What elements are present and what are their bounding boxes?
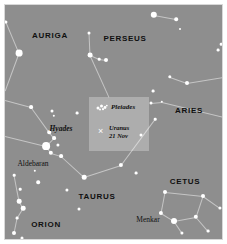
star bbox=[51, 110, 54, 113]
constellation-line bbox=[5, 136, 46, 147]
star bbox=[151, 12, 157, 18]
object-label-menkar: Menkar bbox=[136, 215, 159, 224]
star bbox=[53, 115, 55, 117]
star bbox=[179, 28, 181, 30]
star bbox=[163, 190, 167, 194]
star bbox=[220, 43, 223, 46]
uranus-label: Uranus bbox=[109, 124, 129, 131]
star bbox=[104, 58, 108, 62]
star bbox=[21, 237, 24, 240]
star bbox=[42, 142, 50, 150]
constellation-label-aries: ARIES bbox=[175, 106, 203, 115]
constellation-line bbox=[5, 100, 31, 108]
constellation-line bbox=[174, 217, 196, 222]
star bbox=[174, 17, 178, 21]
star bbox=[171, 218, 177, 224]
star bbox=[180, 231, 183, 234]
star bbox=[98, 58, 101, 61]
uranus-position-marker: × bbox=[98, 127, 103, 136]
star bbox=[19, 188, 22, 191]
star bbox=[12, 231, 16, 235]
star bbox=[119, 163, 123, 167]
star bbox=[154, 118, 157, 121]
star bbox=[150, 102, 153, 105]
star bbox=[16, 50, 23, 57]
constellation-line bbox=[61, 156, 85, 178]
uranus-callout-box: Pleiades × Uranus 21 Nov bbox=[89, 97, 149, 151]
constellation-line bbox=[154, 15, 176, 20]
object-label-hyades: Hyades bbox=[50, 124, 73, 133]
star bbox=[21, 206, 26, 211]
star bbox=[152, 90, 155, 93]
star bbox=[16, 217, 19, 220]
constellation-label-orion: ORION bbox=[31, 220, 61, 229]
star bbox=[207, 230, 210, 233]
star bbox=[34, 170, 36, 172]
star bbox=[76, 112, 79, 115]
star bbox=[52, 136, 56, 140]
star bbox=[185, 81, 189, 85]
constellation-label-auriga: AURIGA bbox=[32, 31, 68, 40]
constellation-label-taurus: TAURUS bbox=[79, 192, 116, 201]
object-label-aldebaran: Aldebaran bbox=[17, 159, 48, 168]
star bbox=[88, 53, 93, 58]
star bbox=[17, 199, 22, 204]
star bbox=[56, 143, 59, 146]
star bbox=[218, 206, 221, 209]
star bbox=[36, 180, 40, 184]
pleiades-cluster-icon bbox=[95, 103, 109, 111]
star bbox=[65, 188, 68, 191]
constellation-line bbox=[165, 192, 203, 197]
star bbox=[88, 32, 91, 35]
pleiades-label: Pleiades bbox=[111, 103, 135, 111]
star-chart: AURIGAPERSEUSARIESTAURUSORIONCETUS Hyade… bbox=[0, 0, 227, 244]
star bbox=[29, 105, 33, 109]
star bbox=[82, 175, 87, 180]
star bbox=[217, 49, 220, 52]
star bbox=[201, 194, 205, 198]
constellation-label-perseus: PERSEUS bbox=[103, 34, 146, 43]
constellation-line bbox=[5, 53, 20, 91]
uranus-date-label: 21 Nov bbox=[109, 132, 128, 139]
constellation-line bbox=[31, 107, 50, 133]
star bbox=[135, 172, 138, 175]
sky-panel: AURIGAPERSEUSARIESTAURUSORIONCETUS Hyade… bbox=[4, 4, 223, 240]
constellation-line bbox=[187, 77, 223, 84]
constellation-line bbox=[84, 165, 121, 178]
star bbox=[59, 154, 63, 158]
star bbox=[13, 174, 16, 177]
star bbox=[78, 208, 81, 211]
constellation-label-cetus: CETUS bbox=[170, 177, 201, 186]
